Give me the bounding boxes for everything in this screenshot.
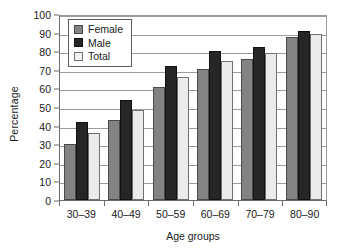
y-tick-label: 60 [39, 83, 51, 95]
x-tick-mark [238, 201, 239, 206]
bar-male [209, 51, 221, 200]
bar-female [153, 87, 165, 200]
bar-male [76, 122, 88, 200]
bar-group [149, 16, 193, 200]
x-axis-title: Age groups [59, 230, 327, 242]
bar-female [64, 144, 76, 200]
bar-male [120, 100, 132, 200]
x-tick-mark [326, 201, 327, 206]
bar-total [177, 77, 189, 200]
bar-female [197, 69, 209, 200]
x-tick-mark [104, 201, 105, 206]
legend-label: Male [88, 38, 111, 49]
x-tick-cell: 80–90 [282, 201, 327, 227]
bar-female [286, 37, 298, 200]
x-tick-cell: 60–69 [193, 201, 238, 227]
x-tick-label: 80–90 [282, 208, 327, 220]
bar-group [193, 16, 237, 200]
y-tick-label: 80 [39, 46, 51, 58]
y-tick-label: 100 [33, 9, 51, 21]
y-axis-ticks: 0102030405060708090100 [0, 15, 59, 201]
y-tick-label: 40 [39, 121, 51, 133]
x-tick-cell: 50–59 [148, 201, 193, 227]
legend-item-total: Total [74, 51, 123, 62]
legend-item-male: Male [74, 38, 123, 49]
bar-male [253, 47, 265, 200]
bar-total [88, 133, 100, 200]
bar-male [165, 66, 177, 200]
x-tick-label: 70–79 [238, 208, 283, 220]
bar-total [265, 53, 277, 200]
bar-total [221, 61, 233, 201]
x-tick-cell: 30–39 [59, 201, 104, 227]
y-tick-label: 90 [39, 28, 51, 40]
bar-total [132, 110, 144, 200]
bar-group [282, 16, 326, 200]
y-tick-label: 20 [39, 158, 51, 170]
x-tick-label: 50–59 [148, 208, 193, 220]
y-tick-label: 10 [39, 176, 51, 188]
x-tick-mark [59, 201, 60, 206]
x-tick-mark [282, 201, 283, 206]
y-tick-label: 70 [39, 65, 51, 77]
x-tick-mark [193, 201, 194, 206]
x-tick-cell: 70–79 [238, 201, 283, 227]
x-tick-mark [148, 201, 149, 206]
legend-item-female: Female [74, 24, 123, 35]
bar-chart: Percentage 0102030405060708090100 Female… [0, 0, 350, 252]
legend-label: Total [88, 51, 110, 62]
bar-female [241, 59, 253, 200]
x-tick-label: 40–49 [104, 208, 149, 220]
y-tick-label: 50 [39, 102, 51, 114]
legend-swatch-icon [74, 38, 83, 47]
legend-label: Female [88, 24, 123, 35]
x-tick-cell: 40–49 [104, 201, 149, 227]
legend-swatch-icon [74, 25, 83, 34]
bar-female [108, 120, 120, 200]
legend: FemaleMaleTotal [68, 19, 132, 67]
x-tick-label: 60–69 [193, 208, 238, 220]
bar-male [298, 31, 310, 200]
x-axis-ticks: 30–3940–4950–5960–6970–7980–90 [59, 201, 327, 227]
legend-swatch-icon [74, 52, 83, 61]
bar-total [310, 34, 322, 200]
x-tick-label: 30–39 [59, 208, 104, 220]
bar-group [237, 16, 281, 200]
y-tick-label: 0 [45, 195, 51, 207]
y-tick-label: 30 [39, 139, 51, 151]
